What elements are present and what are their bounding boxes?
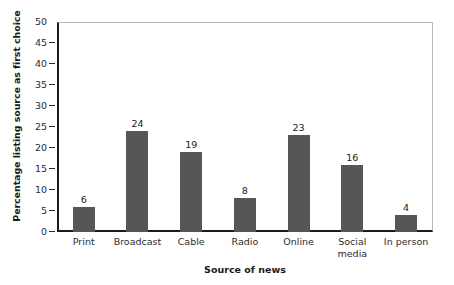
bar-group xyxy=(111,131,165,232)
bar xyxy=(234,198,256,232)
y-axis-tick-label: 50 xyxy=(35,15,47,28)
x-axis-title: Source of news xyxy=(57,264,433,275)
y-axis-title: Percentage listing source as first choic… xyxy=(9,0,25,232)
bar xyxy=(341,165,363,232)
y-axis-tick-mark xyxy=(49,231,55,232)
x-axis-tick-label: Radio xyxy=(218,236,272,248)
bar-group xyxy=(57,207,111,232)
bar-value-label: 16 xyxy=(326,152,380,163)
y-axis-tick-label: 25 xyxy=(35,120,47,133)
y-axis-tick-label: 10 xyxy=(35,183,47,196)
bar xyxy=(126,131,148,232)
bar-group xyxy=(379,215,433,232)
y-axis-tick-mark xyxy=(49,84,55,85)
bar-value-label: 4 xyxy=(379,202,433,213)
bar-chart: Percentage listing source as first choic… xyxy=(0,0,454,285)
y-axis-tick-mark xyxy=(49,126,55,127)
bar-value-label: 6 xyxy=(57,194,111,205)
x-axis-tick-label: In person xyxy=(379,236,433,248)
y-axis-tick-mark xyxy=(49,210,55,211)
bar-value-label: 19 xyxy=(164,139,218,150)
y-axis-tick-mark xyxy=(49,105,55,106)
y-axis-tick-label: 40 xyxy=(35,57,47,70)
bar-value-label: 23 xyxy=(272,122,326,133)
y-axis-tick-label: 15 xyxy=(35,162,47,175)
y-axis-tick-mark xyxy=(49,42,55,43)
bar-group xyxy=(164,152,218,232)
x-axis-tick-label: Print xyxy=(57,236,111,248)
bar xyxy=(73,207,95,232)
bar xyxy=(288,135,310,232)
x-axis-tick-label: Social media xyxy=(326,236,380,259)
y-axis-tick-mark xyxy=(49,147,55,148)
y-axis-tick-label: 5 xyxy=(41,204,47,217)
y-axis-tick-mark xyxy=(49,168,55,169)
bar-group xyxy=(272,135,326,232)
bar xyxy=(395,215,417,232)
y-axis-tick-label: 20 xyxy=(35,141,47,154)
bar-group xyxy=(218,198,272,232)
x-axis-tick-label: Broadcast xyxy=(111,236,165,248)
x-axis-tick-label: Cable xyxy=(164,236,218,248)
bar-value-label: 24 xyxy=(111,118,165,129)
x-axis-tick-labels: PrintBroadcastCableRadioOnlineSocial med… xyxy=(57,236,433,264)
y-axis-tick-label: 45 xyxy=(35,36,47,49)
bar xyxy=(180,152,202,232)
y-axis-tick-label: 35 xyxy=(35,78,47,91)
y-axis-tick-label: 30 xyxy=(35,99,47,112)
bars-layer: 62419823164 xyxy=(57,22,433,232)
y-axis-tick-mark xyxy=(49,189,55,190)
bar-group xyxy=(326,165,380,232)
y-axis-tick-label: 0 xyxy=(41,225,47,238)
x-axis-tick-label: Online xyxy=(272,236,326,248)
bar-value-label: 8 xyxy=(218,185,272,196)
y-axis-tick-mark xyxy=(49,63,55,64)
